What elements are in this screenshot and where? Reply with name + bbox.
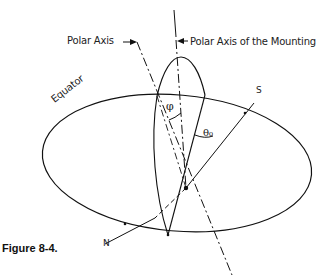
hour-circle-left	[154, 96, 168, 235]
ns-line-solid-lower	[105, 218, 155, 244]
theta-label: θ₀	[203, 127, 213, 138]
center-point	[184, 186, 188, 190]
phi-label: φ	[166, 100, 174, 113]
mount-axis-line	[176, 40, 186, 188]
mount-axis-arrowhead	[177, 38, 184, 44]
mount-axis-solid-top	[174, 10, 176, 37]
meridian-loop	[157, 57, 205, 96]
equator-n-point	[124, 223, 127, 226]
equator-s-point	[244, 112, 247, 115]
polar-axis-mounting-label: Polar Axis of the Mounting	[190, 36, 316, 47]
equator-bottom-point	[167, 234, 170, 237]
north-label: N	[103, 238, 110, 248]
polar-axis-line	[137, 42, 232, 275]
hour-circle-right	[168, 95, 205, 235]
south-label: S	[256, 85, 262, 95]
figure-caption: Figure 8-4.	[2, 242, 58, 254]
ns-line-solid-upper	[186, 103, 254, 188]
polar-axis-label: Polar Axis	[67, 35, 114, 46]
phi-arc	[169, 113, 181, 120]
polar-axis-arrowhead	[130, 39, 137, 45]
equator-ellipse	[37, 83, 318, 242]
